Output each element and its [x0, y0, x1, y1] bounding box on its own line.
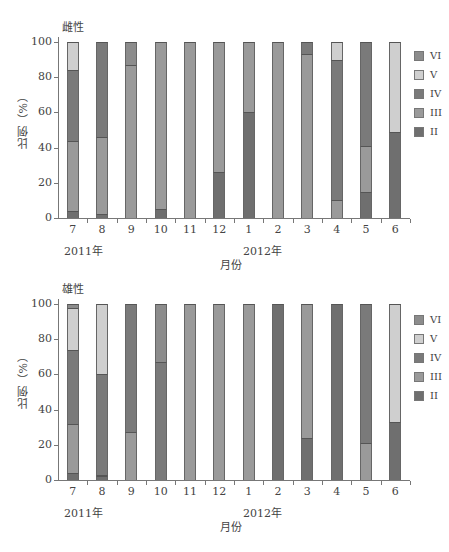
stacked-bar-1 — [243, 304, 255, 480]
y-tick-label: 20 — [26, 438, 52, 451]
bar-segment-III — [67, 141, 79, 211]
female-chart-title: 雌性 — [62, 18, 84, 34]
x-tick-label: 5 — [351, 485, 381, 498]
x-tick-label: 6 — [380, 223, 410, 236]
stacked-bar-10 — [155, 304, 167, 480]
bar-segment-IV — [155, 362, 167, 480]
y-tick — [54, 304, 58, 305]
female-legend: VIVIVIIIII — [414, 46, 442, 141]
legend-item-VI: VI — [414, 310, 442, 329]
x-tick-label: 12 — [204, 223, 234, 236]
stacked-bar-2 — [272, 304, 284, 480]
legend-label: III — [430, 107, 442, 118]
bar-segment-III — [272, 42, 284, 218]
bar-segment-IV — [96, 374, 108, 474]
legend-swatch — [414, 70, 424, 80]
bar-segment-V — [67, 308, 79, 350]
stacked-bar-6 — [389, 42, 401, 218]
stacked-bar-11 — [184, 304, 196, 480]
bar-segment-VI — [155, 304, 167, 362]
y-tick — [54, 410, 58, 411]
stacked-bar-7 — [67, 304, 79, 480]
legend-swatch — [414, 372, 424, 382]
bar-segment-III — [184, 304, 196, 480]
bar-segment-II — [243, 112, 255, 218]
male-chart-title: 雄性 — [62, 280, 84, 296]
y-tick — [54, 445, 58, 446]
legend-item-III: III — [414, 103, 442, 122]
legend-item-IV: IV — [414, 84, 442, 103]
bar-segment-IV — [301, 42, 313, 54]
legend-swatch — [414, 127, 424, 137]
legend-item-IV: IV — [414, 348, 442, 367]
male-plot-area: 020406080100789101112123456 — [58, 299, 410, 481]
x-tick-label: 8 — [87, 223, 117, 236]
y-tick-label: 100 — [26, 35, 52, 48]
bar-segment-III — [184, 42, 196, 218]
bar-segment-II — [96, 476, 108, 480]
x-tick-label: 7 — [58, 485, 88, 498]
bar-segment-II — [360, 192, 372, 218]
legend-label: III — [430, 371, 442, 382]
stacked-bar-4 — [331, 304, 343, 480]
bar-segment-II — [272, 304, 284, 480]
legend-label: II — [430, 390, 438, 401]
bar-segment-III — [96, 137, 108, 214]
male-legend: VIVIVIIIII — [414, 310, 442, 405]
bar-segment-III — [243, 42, 255, 112]
legend-swatch — [414, 51, 424, 61]
x-tick-label: 9 — [116, 223, 146, 236]
bar-segment-III — [301, 304, 313, 438]
legend-swatch — [414, 391, 424, 401]
x-tick-label: 11 — [175, 223, 205, 236]
y-tick-label: 40 — [26, 403, 52, 416]
bar-segment-III — [301, 54, 313, 218]
male-x-axis-title: 月份 — [220, 518, 242, 534]
male-year-2011: 2011年 — [64, 504, 103, 520]
x-tick-label: 8 — [87, 485, 117, 498]
y-tick-label: 0 — [26, 473, 52, 486]
bar-segment-IV — [360, 304, 372, 443]
y-tick-label: 60 — [26, 367, 52, 380]
bar-segment-III — [331, 200, 343, 218]
bar-segment-II — [301, 438, 313, 480]
legend-label: IV — [430, 352, 441, 363]
x-tick-label: 3 — [292, 223, 322, 236]
legend-item-III: III — [414, 367, 442, 386]
x-tick-label: 10 — [146, 485, 176, 498]
bar-segment-IV — [67, 70, 79, 140]
y-tick-label: 60 — [26, 105, 52, 118]
y-axis-line — [58, 37, 59, 219]
bar-segment-II — [155, 209, 167, 218]
y-tick — [54, 112, 58, 113]
legend-item-VI: VI — [414, 46, 442, 65]
x-tick-label: 3 — [292, 485, 322, 498]
bar-segment-IV — [331, 60, 343, 201]
bar-segment-IV — [360, 42, 372, 146]
bar-segment-II — [389, 422, 401, 480]
female-year-2011: 2011年 — [64, 242, 103, 258]
y-tick — [54, 218, 58, 219]
y-axis-line — [58, 299, 59, 481]
bar-segment-III — [360, 146, 372, 192]
bar-segment-V — [389, 42, 401, 132]
x-tick-label: 1 — [234, 223, 264, 236]
bar-segment-V — [67, 42, 79, 70]
legend-swatch — [414, 334, 424, 344]
bar-segment-IV — [96, 42, 108, 137]
stacked-bar-11 — [184, 42, 196, 218]
x-tick-label: 10 — [146, 223, 176, 236]
bar-segment-III — [360, 443, 372, 480]
x-tick-label: 12 — [204, 485, 234, 498]
male-chart-panel: 雄性 比例（%） 020406080100789101112123456 201… — [0, 270, 449, 540]
stacked-bar-10 — [155, 42, 167, 218]
y-tick-label: 80 — [26, 70, 52, 83]
y-tick-label: 100 — [26, 297, 52, 310]
legend-item-V: V — [414, 329, 442, 348]
bar-segment-III — [213, 304, 225, 480]
x-tick-label: 4 — [322, 223, 352, 236]
female-plot-area: 020406080100789101112123456 — [58, 37, 410, 219]
y-tick — [54, 480, 58, 481]
bar-segment-III — [213, 42, 225, 172]
stacked-bar-12 — [213, 42, 225, 218]
